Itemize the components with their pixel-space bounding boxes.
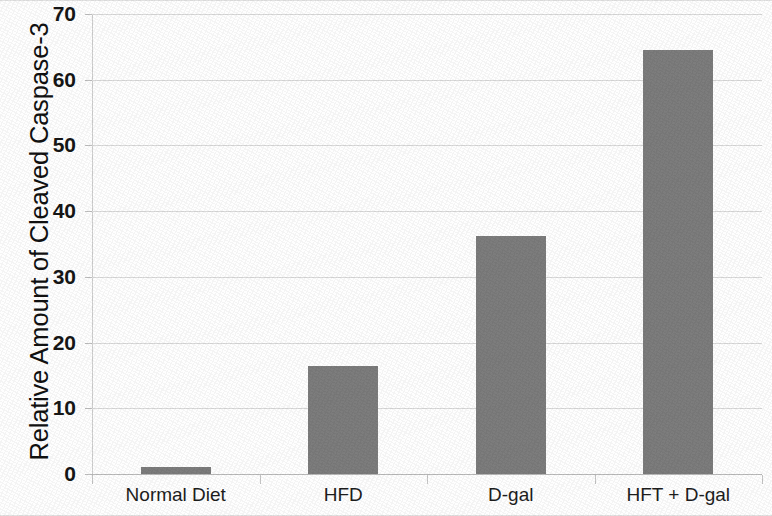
y-tick-mark	[85, 80, 92, 81]
x-tick-label: HFT + D-gal	[595, 484, 763, 506]
y-tick-label: 30	[28, 266, 76, 287]
page-edge-top	[0, 0, 772, 1]
y-tick-label: 40	[28, 200, 76, 221]
x-tick-mark	[92, 475, 93, 484]
bar-chart: Relative Amount of Cleaved Caspase-3 706…	[0, 0, 772, 516]
x-tick-mark	[260, 475, 261, 484]
bar	[476, 236, 546, 474]
y-tick-label: 60	[28, 69, 76, 90]
y-tick-mark	[85, 145, 92, 146]
gridline	[92, 14, 762, 15]
y-tick-mark	[85, 277, 92, 278]
y-tick-label: 0	[28, 463, 76, 484]
bar	[308, 366, 378, 474]
x-tick-label: HFD	[260, 484, 428, 506]
y-tick-mark	[85, 343, 92, 344]
y-tick-mark	[85, 474, 92, 475]
y-tick-mark	[85, 211, 92, 212]
bar	[141, 467, 211, 474]
y-tick-label: 50	[28, 134, 76, 155]
x-tick-mark	[427, 475, 428, 484]
bar	[643, 50, 713, 474]
y-tick-mark	[85, 14, 92, 15]
x-tick-mark	[762, 475, 763, 484]
y-tick-mark	[85, 408, 92, 409]
y-tick-label: 70	[28, 3, 76, 24]
y-tick-label: 10	[28, 397, 76, 418]
x-tick-mark	[595, 475, 596, 484]
x-tick-label: Normal Diet	[92, 484, 260, 506]
y-tick-label: 20	[28, 332, 76, 353]
plot-area	[92, 14, 762, 474]
x-tick-label: D-gal	[427, 484, 595, 506]
